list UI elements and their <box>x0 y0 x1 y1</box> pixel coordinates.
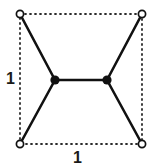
corner-vertex-bottom-right <box>138 140 145 147</box>
interior-node-left <box>50 75 59 84</box>
corner-vertex-bottom-left <box>16 140 23 147</box>
dimension-label-left-side: 1 <box>6 71 15 87</box>
interior-node-right <box>102 75 111 84</box>
corner-vertex-top-right <box>138 10 145 17</box>
dimension-label-bottom-side: 1 <box>73 150 82 166</box>
edge-bottomright-to-rightnode <box>107 80 142 144</box>
edge-bottomleft-to-leftnode <box>20 80 55 144</box>
solid-tree-edges <box>20 14 142 144</box>
corner-vertex-top-left <box>16 10 23 17</box>
diagram-canvas <box>0 0 159 168</box>
steiner-tree-unit-square-figure: 1 1 <box>0 0 159 168</box>
edge-topleft-to-leftnode <box>20 14 55 80</box>
edge-topright-to-rightnode <box>107 14 142 80</box>
